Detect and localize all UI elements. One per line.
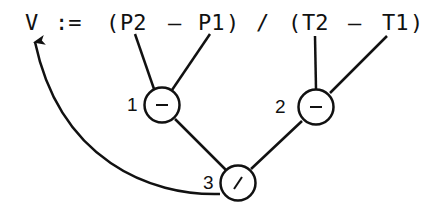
token-rparen-2: ) xyxy=(410,12,423,34)
edge-t1-node2 xyxy=(330,36,387,93)
token-p2: P2 xyxy=(120,12,147,34)
edge-node2-node3 xyxy=(251,121,302,169)
result-arrow xyxy=(35,42,220,194)
node-3-label: 3 xyxy=(203,173,214,193)
token-minus-1: – xyxy=(168,12,181,34)
token-divide: / xyxy=(256,12,269,34)
node-2-label: 2 xyxy=(275,97,286,117)
token-target-v: V xyxy=(25,12,38,34)
edge-p1-node1 xyxy=(172,34,210,90)
token-p1: P1 xyxy=(198,12,225,34)
edge-t2-node2 xyxy=(315,36,316,89)
token-t1: T1 xyxy=(382,12,409,34)
token-rparen-1: ) xyxy=(226,12,239,34)
token-assign: := xyxy=(55,12,82,34)
token-lparen-1: ( xyxy=(106,12,119,34)
token-minus-2: – xyxy=(348,12,361,34)
token-lparen-2: ( xyxy=(288,12,301,34)
node-1-label: 1 xyxy=(127,95,138,115)
token-t2: T2 xyxy=(302,12,329,34)
expression-tree-diagram: V := ( P2 – P1 ) / ( T2 – T1 ) 1 2 3 xyxy=(0,0,445,209)
edge-p2-node1 xyxy=(135,34,154,89)
edge-node1-node3 xyxy=(175,119,226,170)
